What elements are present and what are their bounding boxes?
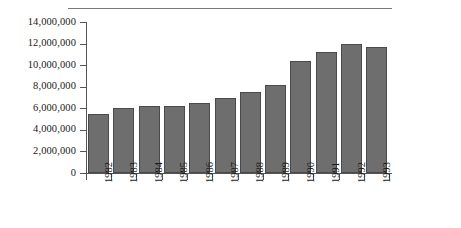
y-axis-tick-label: 12,000,000	[0, 38, 76, 49]
plot-area: 02,000,0004,000,0006,000,0008,000,00010,…	[0, 0, 461, 228]
y-axis-tick-label: 6,000,000	[0, 103, 76, 114]
y-axis-tick-mark	[80, 44, 87, 45]
x-axis-tick-label: 1984	[154, 139, 165, 183]
y-axis-tick-mark	[80, 130, 87, 131]
x-axis-tick-label: 1988	[255, 139, 266, 183]
y-axis-tick-mark	[80, 151, 87, 152]
y-axis-tick-label-wrapper: 12,000,000	[0, 38, 76, 49]
y-axis-tick-label: 10,000,000	[0, 60, 76, 71]
bar-chart-figure: 02,000,0004,000,0006,000,0008,000,00010,…	[0, 0, 461, 228]
y-axis-tick-label-wrapper: 4,000,000	[0, 124, 76, 135]
x-axis-tick-label: 1991	[331, 139, 342, 183]
y-axis-tick-label: 0	[0, 168, 76, 179]
x-axis-tick-label: 1982	[104, 139, 115, 183]
y-axis-tick-label-wrapper: 0	[0, 168, 76, 179]
y-axis-tick-mark	[80, 65, 87, 66]
y-axis-tick-label: 4,000,000	[0, 124, 76, 135]
y-axis-tick-label-wrapper: 6,000,000	[0, 103, 76, 114]
y-axis-tick-mark	[80, 87, 87, 88]
y-axis-tick-label-wrapper: 8,000,000	[0, 81, 76, 92]
x-axis-tick-label: 1983	[129, 139, 140, 183]
y-axis-tick-label-wrapper: 2,000,000	[0, 146, 76, 157]
x-axis-tick-label: 1985	[179, 139, 190, 183]
y-axis-tick-label-wrapper: 10,000,000	[0, 60, 76, 71]
y-axis-tick-label: 8,000,000	[0, 81, 76, 92]
x-axis-tick-label: 1986	[205, 139, 216, 183]
y-axis-tick-label-wrapper: 14,000,000	[0, 17, 76, 28]
y-axis-tick-label: 2,000,000	[0, 146, 76, 157]
y-axis-tick-mark	[80, 22, 87, 23]
x-axis-tick-mark	[86, 174, 87, 180]
x-axis-tick-label: 1993	[382, 139, 393, 183]
x-axis-tick-label: 1987	[230, 139, 241, 183]
x-axis-tick-label: 1990	[306, 139, 317, 183]
x-axis-tick-label: 1992	[357, 139, 368, 183]
y-axis-tick-label: 14,000,000	[0, 17, 76, 28]
y-axis-tick-mark	[80, 108, 87, 109]
x-axis-tick-label: 1989	[281, 139, 292, 183]
